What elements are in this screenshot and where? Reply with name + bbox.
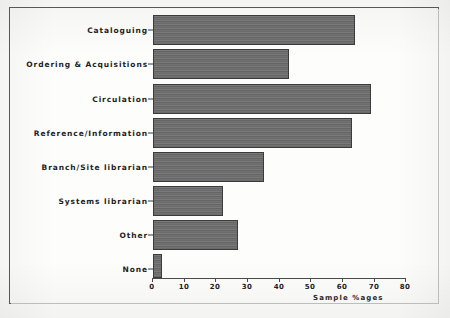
category-label-circulation: Circulation: [92, 95, 148, 104]
bar-ordering-acquisitions: [153, 49, 289, 79]
x-tick-mark-30: [247, 278, 248, 282]
x-tick-label-70: 70: [369, 283, 380, 291]
x-tick-mark-40: [279, 278, 280, 282]
x-axis-title: Sample %ages: [313, 294, 384, 302]
bar-reference-information: [153, 118, 352, 148]
x-tick-label-60: 60: [337, 283, 348, 291]
chart-screenshot: Cataloguing Ordering & Acquisitions Circ…: [0, 0, 450, 318]
x-tick-mark-80: [405, 278, 406, 282]
category-label-none: None: [123, 265, 148, 274]
x-tick-label-10: 10: [179, 283, 190, 291]
bar-chart-plot-area: Cataloguing Ordering & Acquisitions Circ…: [0, 0, 450, 318]
bar-systems-librarian: [153, 186, 223, 216]
x-tick-mark-10: [184, 278, 185, 282]
category-label-cataloguing: Cataloguing: [87, 26, 148, 35]
x-tick-label-80: 80: [400, 283, 411, 291]
bar-cataloguing: [153, 15, 355, 45]
x-tick-mark-50: [310, 278, 311, 282]
category-label-other: Other: [119, 231, 148, 240]
x-tick-mark-70: [374, 278, 375, 282]
x-tick-label-20: 20: [210, 283, 221, 291]
bar-branch-site-librarian: [153, 152, 264, 182]
x-tick-label-30: 30: [242, 283, 253, 291]
category-label-ordering-acquisitions: Ordering & Acquisitions: [26, 60, 148, 69]
category-label-reference-information: Reference/Information: [34, 129, 148, 138]
bar-none: [153, 254, 162, 278]
category-label-systems-librarian: Systems librarian: [58, 197, 148, 206]
x-tick-mark-0: [152, 278, 153, 282]
x-tick-label-40: 40: [274, 283, 285, 291]
category-labels-column: Cataloguing Ordering & Acquisitions Circ…: [14, 0, 148, 318]
x-tick-mark-60: [342, 278, 343, 282]
x-tick-label-0: 0: [149, 283, 154, 291]
category-label-branch-site-librarian: Branch/Site librarian: [42, 163, 148, 172]
x-tick-mark-20: [215, 278, 216, 282]
bar-other: [153, 220, 238, 250]
bar-circulation: [153, 84, 371, 114]
x-tick-label-50: 50: [305, 283, 316, 291]
